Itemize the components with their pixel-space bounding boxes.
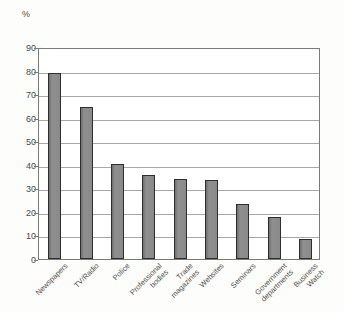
x-axis-category-labels: NewspapersTV/RadioPoliceProfessional bod… [38, 262, 320, 312]
bar [142, 175, 155, 259]
y-tick-label: 50 [2, 138, 36, 147]
y-axis-unit-label: % [22, 9, 30, 19]
bar-chart: % 9080706050403020100 NewspapersTV/Radio… [0, 0, 344, 312]
y-tick-label: 20 [2, 208, 36, 217]
y-tick-label: 80 [2, 67, 36, 76]
y-tick-label: 90 [2, 44, 36, 53]
bar [80, 107, 93, 259]
bars-group [39, 49, 319, 259]
y-tick-mark [34, 260, 38, 261]
y-tick-label: 10 [2, 232, 36, 241]
y-axis: 9080706050403020100 [0, 48, 36, 260]
y-tick-label: 30 [2, 185, 36, 194]
bar [268, 217, 281, 259]
y-tick-label: 0 [2, 256, 36, 265]
bar [111, 164, 124, 259]
y-tick-label: 60 [2, 114, 36, 123]
y-tick-label: 70 [2, 91, 36, 100]
y-tick-label: 40 [2, 161, 36, 170]
bar [236, 204, 249, 259]
bar [174, 179, 187, 259]
plot-area [38, 48, 320, 260]
bar [299, 239, 312, 259]
bar [48, 73, 61, 259]
bar [205, 180, 218, 259]
